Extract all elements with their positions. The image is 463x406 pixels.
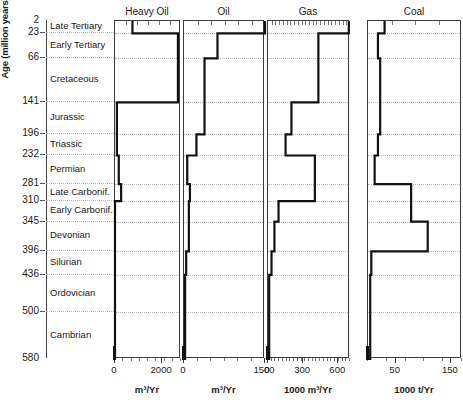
panel-title-oil: Oil bbox=[183, 6, 264, 17]
plot-panel-gas bbox=[267, 20, 349, 358]
x-major-tick bbox=[450, 358, 451, 363]
x-minor-tick bbox=[349, 358, 350, 361]
x-minor-tick bbox=[327, 358, 328, 361]
x-tick-label: 300 bbox=[282, 365, 322, 375]
period-label: Silurian bbox=[50, 257, 82, 267]
x-tick-label: 50 bbox=[375, 365, 415, 375]
zero-marker bbox=[182, 346, 185, 360]
gridline bbox=[46, 221, 114, 222]
x-tick-label: 0 bbox=[94, 365, 134, 375]
plot-panel-oil bbox=[183, 20, 264, 358]
y-axis-tick-310: 310 bbox=[22, 195, 39, 205]
y-axis-tick-66: 66 bbox=[28, 52, 39, 62]
x-minor-tick bbox=[323, 358, 324, 361]
x-minor-tick bbox=[274, 358, 275, 361]
panel-title-heavy-oil: Heavy Oil bbox=[114, 6, 180, 17]
period-label: Early Tertiary bbox=[50, 40, 105, 50]
panel-title-coal: Coal bbox=[367, 6, 461, 17]
x-axis-units-coal: 1000 t/Yr bbox=[357, 384, 463, 395]
y-tick-mark bbox=[40, 221, 45, 222]
x-minor-tick bbox=[139, 358, 140, 361]
y-tick-mark bbox=[40, 57, 45, 58]
x-minor-tick bbox=[442, 358, 443, 361]
x-minor-tick bbox=[197, 358, 198, 361]
x-minor-tick bbox=[251, 358, 252, 361]
x-tick-label: 150 bbox=[430, 365, 463, 375]
y-axis-tick-232: 232 bbox=[22, 149, 39, 159]
x-minor-tick bbox=[312, 358, 313, 361]
x-axis-units-gas: 1000 m³/Yr bbox=[257, 384, 359, 395]
period-label: Early Carbonif. bbox=[50, 205, 113, 215]
x-minor-tick bbox=[308, 358, 309, 361]
x-minor-tick bbox=[122, 358, 123, 361]
x-minor-tick bbox=[304, 358, 305, 361]
period-label: Ordovician bbox=[50, 288, 95, 298]
x-minor-tick bbox=[282, 358, 283, 361]
gridline bbox=[46, 311, 114, 312]
gridline bbox=[46, 200, 114, 201]
y-axis-tick-281: 281 bbox=[22, 178, 39, 188]
panel-title-gas: Gas bbox=[267, 6, 349, 17]
x-minor-tick bbox=[315, 358, 316, 361]
x-major-tick bbox=[337, 358, 338, 363]
y-axis-tick-23: 23 bbox=[28, 27, 39, 37]
x-minor-tick bbox=[147, 358, 148, 361]
y-tick-mark bbox=[40, 154, 45, 155]
x-minor-tick bbox=[289, 358, 290, 361]
period-label: Late Tertiary bbox=[50, 21, 102, 31]
y-tick-mark bbox=[40, 133, 45, 134]
x-minor-tick bbox=[319, 358, 320, 361]
x-minor-tick bbox=[293, 358, 294, 361]
x-major-tick bbox=[395, 358, 396, 363]
x-minor-tick bbox=[334, 358, 335, 361]
y-tick-mark bbox=[40, 311, 45, 312]
x-minor-tick bbox=[297, 358, 298, 361]
x-minor-tick bbox=[405, 358, 406, 361]
gridline bbox=[46, 57, 114, 58]
period-label: Cretaceous bbox=[50, 74, 99, 84]
x-minor-tick bbox=[237, 358, 238, 361]
y-tick-mark bbox=[40, 250, 45, 251]
gridline bbox=[46, 274, 114, 275]
y-axis-tick-580: 580 bbox=[22, 353, 39, 363]
y-axis-tick-436: 436 bbox=[22, 269, 39, 279]
y-tick-mark bbox=[40, 101, 45, 102]
x-minor-tick bbox=[180, 358, 181, 361]
period-name-column: Late TertiaryEarly TertiaryCretaceousJur… bbox=[46, 20, 114, 358]
zero-marker bbox=[266, 346, 269, 360]
figure-root: Age (million years) 22366141196232281310… bbox=[0, 0, 463, 406]
step-curve-coal bbox=[368, 21, 462, 359]
y-tick-mark bbox=[40, 183, 45, 184]
y-axis-tick-2: 2 bbox=[33, 15, 39, 25]
period-label: Jurassic bbox=[50, 112, 85, 122]
gridline bbox=[46, 154, 114, 155]
y-axis-spine bbox=[46, 20, 47, 358]
step-curve-heavy-oil bbox=[115, 21, 181, 359]
x-tick-label: 600 bbox=[317, 365, 357, 375]
period-label: Devonian bbox=[50, 230, 90, 240]
x-minor-tick bbox=[278, 358, 279, 361]
y-axis-tick-196: 196 bbox=[22, 128, 39, 138]
x-minor-tick bbox=[224, 358, 225, 361]
gridline bbox=[46, 250, 114, 251]
x-minor-tick bbox=[345, 358, 346, 361]
gridline bbox=[46, 183, 114, 184]
y-tick-mark bbox=[40, 274, 45, 275]
y-axis-tick-141: 141 bbox=[22, 96, 39, 106]
step-curve-oil bbox=[184, 21, 265, 359]
x-tick-label: 0 bbox=[163, 365, 203, 375]
x-minor-tick bbox=[271, 358, 272, 361]
period-label: Cambrian bbox=[50, 330, 91, 340]
y-axis-tick-345: 345 bbox=[22, 216, 39, 226]
x-major-tick bbox=[302, 358, 303, 363]
x-minor-tick bbox=[172, 358, 173, 361]
period-label: Triassic bbox=[50, 139, 82, 149]
zero-marker bbox=[366, 346, 369, 360]
x-minor-tick bbox=[131, 358, 132, 361]
x-minor-tick bbox=[164, 358, 165, 361]
plot-panel-heavy-oil bbox=[114, 20, 180, 358]
gridline bbox=[46, 133, 114, 134]
x-minor-tick bbox=[330, 358, 331, 361]
y-axis-tick-500: 500 bbox=[22, 306, 39, 316]
x-minor-tick bbox=[286, 358, 287, 361]
